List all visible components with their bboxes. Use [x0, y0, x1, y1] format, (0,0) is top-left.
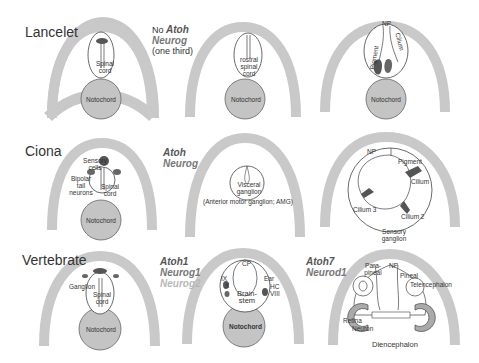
gene-label-lancelet: No Atoh Neurog (one third) — [152, 24, 193, 56]
visceral-ganglion-label: Visceral ganglion — [236, 181, 262, 195]
row-title-vertebrate: Vertebrate — [22, 252, 87, 268]
gene-atoh1: Atoh1 — [160, 256, 188, 267]
row-title-lancelet: Lancelet — [25, 24, 78, 40]
notochord-label: Notochord — [86, 217, 116, 224]
gene-label-vertebrate: Atoh1 Neurog1 Neurog2 — [160, 256, 201, 289]
parapineal-label: Para-pineal — [362, 262, 384, 276]
sensory-cells-label: Sensory cells — [82, 157, 108, 171]
gene-neurog: Neurog — [163, 158, 198, 169]
spinal-cord-label: Spinal cord — [92, 291, 112, 305]
viii-label: VIII — [270, 290, 280, 297]
ganglion-label: Ganglion — [69, 283, 95, 290]
sensory-ganglion-label: Sensory ganglion — [380, 228, 408, 242]
np-label: NP — [367, 148, 376, 155]
gene-atoh: Atoh — [163, 147, 186, 158]
cilium-3-label: Cilium 3 — [353, 206, 376, 213]
ix-label: IX — [221, 275, 227, 282]
brainstem-label: Brain-stem — [237, 290, 257, 304]
np-label: NP — [382, 20, 391, 27]
diencephalon-label: Diencephalon — [372, 341, 418, 348]
gene-neurog1: Neurog1 — [160, 267, 201, 278]
notochord-label: Notochord — [231, 96, 261, 103]
notochord-label: Notochord — [86, 326, 116, 333]
spinal-cord-label: Spinal cord — [100, 183, 120, 197]
notochord-label: Notochord — [229, 323, 262, 330]
cilium-2-label: Cilium 2 — [401, 213, 424, 220]
gene-prefix: No — [152, 25, 164, 35]
notochord-label: Notochord — [371, 96, 401, 103]
x-label: X — [225, 282, 229, 289]
cilium-label: Cilium — [411, 178, 429, 185]
pigment-label: Pigment — [398, 158, 422, 165]
gene-atoh: Atoh — [166, 24, 189, 35]
gene-label-ciona: Atoh Neurog — [163, 147, 198, 169]
pineal-label: Pineal — [400, 272, 418, 279]
notochord-label: Notochord — [86, 96, 116, 103]
rostral-spinal-cord-label: rostral spinal cord — [237, 56, 261, 77]
row-title-ciona: Ciona — [25, 143, 62, 159]
np-label: NP — [389, 262, 398, 269]
bipolar-tail-neurons-label: Bipolar tail neurons — [66, 175, 96, 196]
gene-neurog2: Neurog2 — [160, 278, 201, 289]
cp-label: CP — [242, 260, 251, 267]
gene-note: (one third) — [152, 46, 193, 56]
gene-neurog: Neurog — [152, 35, 187, 46]
hc-label: HC — [270, 283, 279, 290]
gene-label-vertebrate-2: Atoh7 Neurod1 — [306, 256, 347, 278]
amg-label: (Anterior motor ganglion; AMG) — [203, 198, 293, 205]
dorsal-cells-r1p1 — [96, 38, 108, 44]
retina-label: Retina — [343, 317, 362, 324]
gene-neurod1: Neurod1 — [306, 267, 347, 278]
spinal-cord-label: Spinal cord — [93, 60, 117, 74]
ear-label: Ear — [264, 275, 274, 282]
neuron-label: Neuron — [352, 325, 373, 332]
telencephalon-label: Telencephalon — [410, 281, 444, 288]
bipolar-neuron-right — [113, 169, 121, 175]
dorsal-cells-r3p1 — [93, 268, 107, 274]
gene-atoh7: Atoh7 — [306, 256, 334, 267]
